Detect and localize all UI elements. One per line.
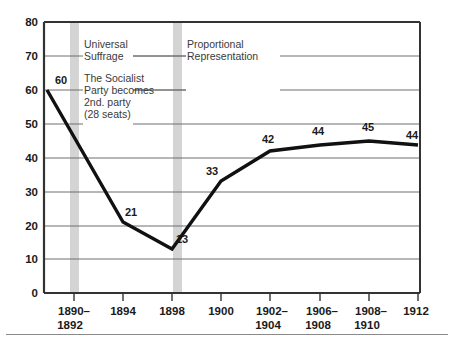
x-tick-label-7-line1: 1912 xyxy=(403,305,429,317)
y-axis-labels: 80 70 60 50 40 30 20 10 0 xyxy=(25,16,38,299)
annotation-universal-suffrage-line-0: Universal xyxy=(84,38,128,50)
data-label-2: 13 xyxy=(176,233,188,245)
x-tick-label-1-line1: 1894 xyxy=(110,305,136,317)
annotation-universal-suffrage-line-1: Suffrage xyxy=(84,50,124,62)
x-tick-label-2-line1: 1898 xyxy=(159,305,185,317)
bottom-divider xyxy=(6,334,448,335)
x-tick-label-6-line2: 1910 xyxy=(354,319,380,331)
annotation-socialist-party-line-3: (28 seats) xyxy=(84,108,131,120)
x-tick-label-3-line1: 1900 xyxy=(208,305,234,317)
data-label-3: 33 xyxy=(206,165,218,177)
data-label-0: 60 xyxy=(55,74,67,86)
data-label-1: 21 xyxy=(125,206,137,218)
data-label-4: 42 xyxy=(262,133,274,145)
x-tick-label-5-line2: 1908 xyxy=(305,319,331,331)
x-tick-label-0-line1: 1890– xyxy=(58,305,91,317)
x-tick-label-4-line2: 1904 xyxy=(255,319,281,331)
y-tick-label-40: 40 xyxy=(25,152,38,164)
line-chart: 80 70 60 50 40 30 20 10 0 1890– 1892 189… xyxy=(0,0,454,346)
data-label-5: 44 xyxy=(312,125,325,137)
y-tick-label-30: 30 xyxy=(25,186,38,198)
annotation-socialist-party-line-2: 2nd. party xyxy=(84,96,131,108)
y-tick-label-20: 20 xyxy=(25,220,38,232)
data-label-7: 44 xyxy=(406,129,419,141)
y-tick-label-50: 50 xyxy=(25,118,38,130)
data-label-6: 45 xyxy=(362,121,374,133)
annotation-socialist-party-line-1: Party becomes xyxy=(84,84,154,96)
x-tick-label-6-line1: 1908– xyxy=(355,305,388,317)
x-tick-label-5-line1: 1906– xyxy=(306,305,339,317)
y-tick-label-10: 10 xyxy=(25,253,38,265)
annotation-proportional-representation-line-0: Proportional xyxy=(187,38,244,50)
x-tick-label-0-line2: 1892 xyxy=(57,319,83,331)
annotation-proportional-representation-line-1: Representation xyxy=(187,50,258,62)
y-tick-label-0: 0 xyxy=(32,287,38,299)
y-tick-label-80: 80 xyxy=(25,16,38,28)
annotation-socialist-party-line-0: The Socialist xyxy=(84,72,144,84)
y-tick-label-60: 60 xyxy=(25,84,38,96)
y-tick-label-70: 70 xyxy=(25,50,38,62)
x-tick-label-4-line1: 1902– xyxy=(256,305,289,317)
chart-container: 80 70 60 50 40 30 20 10 0 1890– 1892 189… xyxy=(0,0,454,346)
annotation-universal-suffrage: Universal Suffrage xyxy=(84,38,128,62)
